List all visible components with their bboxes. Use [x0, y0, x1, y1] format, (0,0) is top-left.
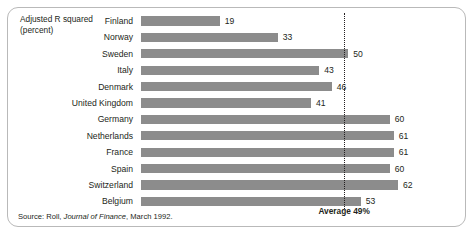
category-label: Spain	[0, 161, 133, 177]
bar-value-label: 60	[395, 111, 405, 127]
category-label: France	[0, 144, 133, 160]
source-journal: Journal of Finance	[64, 212, 126, 221]
bar-value-label: 50	[353, 46, 363, 62]
category-label: Switzerland	[0, 177, 133, 193]
bar-value-label: 33	[283, 29, 293, 45]
bar	[141, 164, 390, 173]
category-label: Finland	[0, 13, 133, 29]
category-label: Netherlands	[0, 128, 133, 144]
bar-value-label: 19	[225, 13, 235, 29]
bar	[141, 131, 394, 140]
average-label: Average 49%	[318, 206, 369, 216]
average-reference-line	[344, 13, 345, 209]
bar-value-label: 60	[395, 161, 405, 177]
bar	[141, 16, 220, 25]
source-suffix: , March 1992.	[126, 212, 172, 221]
bar	[141, 82, 332, 91]
bar-value-label: 62	[403, 177, 413, 193]
category-label: Germany	[0, 111, 133, 127]
source-prefix: Source: Roll,	[18, 212, 64, 221]
bar-value-label: 41	[316, 95, 326, 111]
bar	[141, 115, 390, 124]
bar	[141, 98, 311, 107]
category-label: United Kingdom	[0, 95, 133, 111]
category-label: Denmark	[0, 79, 133, 95]
bar	[141, 197, 361, 206]
bar	[141, 180, 398, 189]
bar-chart-plot-area: Finland19Norway33Sweden50Italy43Denmark4…	[0, 0, 473, 234]
category-label: Italy	[0, 62, 133, 78]
figure-container: Adjusted R squared (percent) Finland19No…	[0, 0, 473, 234]
category-label: Belgium	[0, 193, 133, 209]
category-label: Sweden	[0, 46, 133, 62]
bar-value-label: 61	[399, 128, 409, 144]
bar	[141, 33, 278, 42]
bar-value-label: 61	[399, 144, 409, 160]
bar-value-label: 43	[324, 62, 334, 78]
source-note: Source: Roll, Journal of Finance, March …	[18, 212, 173, 221]
bar	[141, 148, 394, 157]
bar	[141, 66, 319, 75]
category-label: Norway	[0, 29, 133, 45]
bar	[141, 49, 348, 58]
